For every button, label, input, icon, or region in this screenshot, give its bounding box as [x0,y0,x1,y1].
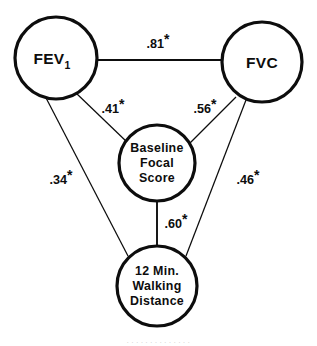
node-label-baseline-focal-score-line2: Focal [140,156,174,170]
significance-star-icon: * [119,96,125,112]
node-label-fvc: FVC [246,54,278,71]
significance-star-icon: * [164,31,170,47]
path-diagram-canvas: FEV1 FVC Baseline Focal Score 12 Min. Wa… [0,0,317,346]
edge-value-fvc-baseline: .56 [194,102,212,116]
edge-label-fvc-baseline: .56* [194,96,218,116]
edge-label-fev1-fvc: .81* [147,31,171,51]
edge-value-baseline-walking: .60 [165,217,183,231]
significance-star-icon: * [67,167,73,183]
node-label-fev1-main: FEV [33,50,64,67]
node-label-walking-distance-line3: Distance [130,294,184,308]
edge-value-fvc-walking: .46 [237,173,255,187]
edge-value-fev1-baseline: .41 [102,102,120,116]
significance-star-icon: * [254,167,260,183]
edge-label-fev1-baseline: .41* [102,96,126,116]
node-label-baseline-focal-score-line3: Score [139,171,175,185]
edge-value-fev1-walking: .34 [50,173,68,187]
clipped-caption-text: . . . . . . . . . . . . . . [0,336,317,346]
node-label-walking-distance-line1: 12 Min. [135,264,179,278]
edge-value-fev1-fvc: .81 [147,37,165,51]
significance-star-icon: * [182,211,188,227]
edge-label-fev1-walking: .34* [50,167,74,187]
significance-star-icon: * [211,96,217,112]
node-label-walking-distance-line2: Walking [132,279,181,293]
path-diagram-figure: FEV1 FVC Baseline Focal Score 12 Min. Wa… [0,0,317,346]
node-label-baseline-focal-score-line1: Baseline [130,141,183,155]
edge-label-baseline-walking: .60* [165,211,189,231]
node-label-fev1-subscript: 1 [64,59,70,71]
edge-label-fvc-walking: .46* [237,167,261,187]
